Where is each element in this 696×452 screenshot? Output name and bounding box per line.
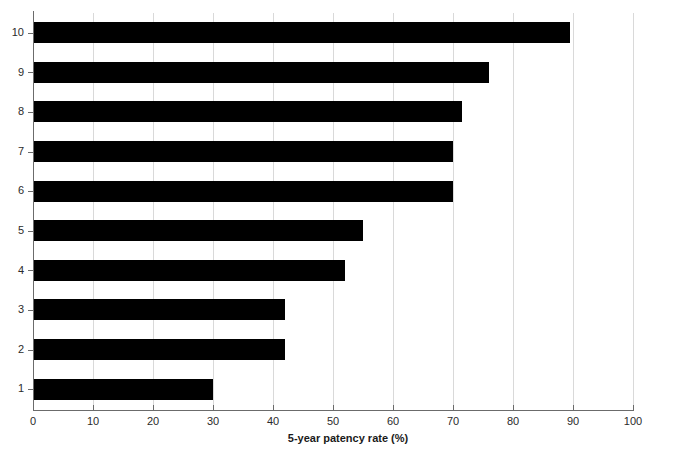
y-tick [28, 112, 34, 113]
x-axis-tick-label-100: 100 [613, 415, 653, 427]
y-tick [28, 152, 34, 153]
y-axis-label-5: 5 [0, 225, 24, 236]
bar-category-8 [33, 101, 462, 122]
y-axis-label-7: 7 [0, 146, 24, 157]
y-axis-label-2: 2 [0, 344, 24, 355]
x-tick [573, 405, 574, 411]
y-axis-label-10: 10 [0, 27, 24, 38]
bar-category-6 [33, 181, 453, 202]
bar-category-10 [33, 22, 570, 43]
bar-row [33, 211, 633, 251]
y-axis-label-9: 9 [0, 67, 24, 78]
x-axis-tick-label-0: 0 [13, 415, 53, 427]
y-tick [28, 191, 34, 192]
x-axis-tick-label-20: 20 [133, 415, 173, 427]
y-tick [28, 231, 34, 232]
x-axis-tick-label-10: 10 [73, 415, 113, 427]
bar-row [33, 369, 633, 409]
bar-row [33, 290, 633, 330]
y-tick [28, 72, 34, 73]
x-tick [333, 405, 334, 411]
y-axis-label-4: 4 [0, 265, 24, 276]
y-axis-label-1: 1 [0, 383, 24, 394]
y-axis-label-8: 8 [0, 106, 24, 117]
x-axis-tick-label-80: 80 [493, 415, 533, 427]
bar-category-1 [33, 379, 213, 400]
y-axis-label-3: 3 [0, 304, 24, 315]
bar-row [33, 13, 633, 53]
x-tick [273, 405, 274, 411]
plot-area [33, 13, 633, 409]
x-axis-tick-label-70: 70 [433, 415, 473, 427]
x-tick [633, 405, 634, 411]
bar-category-9 [33, 62, 489, 83]
y-tick [28, 33, 34, 34]
bar-category-4 [33, 260, 345, 281]
gridline-100 [633, 13, 634, 409]
y-tick [28, 270, 34, 271]
bar-row [33, 132, 633, 172]
y-tick [28, 350, 34, 351]
x-tick [93, 405, 94, 411]
bar-row [33, 251, 633, 291]
x-tick [453, 405, 454, 411]
y-axis-line [33, 11, 34, 411]
x-axis-tick-label-50: 50 [313, 415, 353, 427]
x-axis-tick-label-30: 30 [193, 415, 233, 427]
bar-category-7 [33, 141, 453, 162]
x-tick [393, 405, 394, 411]
bar-row [33, 53, 633, 93]
x-tick [513, 405, 514, 411]
x-axis-title: 5-year patency rate (%) [0, 432, 696, 444]
bar-category-5 [33, 220, 363, 241]
x-axis-tick-label-60: 60 [373, 415, 413, 427]
x-tick [153, 405, 154, 411]
y-tick [28, 310, 34, 311]
y-axis-label-6: 6 [0, 185, 24, 196]
bar-row [33, 330, 633, 370]
y-tick [28, 389, 34, 390]
bar-category-3 [33, 299, 285, 320]
x-tick [213, 405, 214, 411]
bar-row [33, 171, 633, 211]
bar-row [33, 92, 633, 132]
x-axis-tick-label-90: 90 [553, 415, 593, 427]
bar-category-2 [33, 339, 285, 360]
x-tick [33, 405, 34, 411]
x-axis-tick-label-40: 40 [253, 415, 293, 427]
bar-chart: 10 9 8 7 6 5 4 3 2 1 0 10 20 30 40 50 60… [0, 0, 696, 452]
